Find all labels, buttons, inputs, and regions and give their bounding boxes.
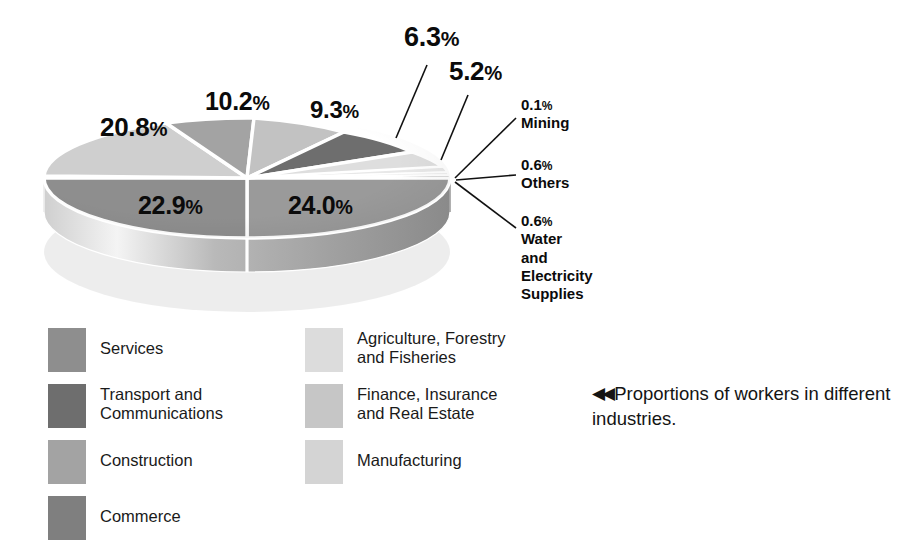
- callout-others-pct: 0.6%: [521, 156, 569, 174]
- legend-swatch-services: [48, 328, 86, 372]
- leader-line-others: [456, 175, 516, 180]
- legend-item-construction[interactable]: Construction: [48, 440, 193, 484]
- callout-water-pct: 0.6%: [521, 212, 593, 230]
- legend-swatch-commerce: [48, 496, 86, 540]
- legend-swatch-construction: [48, 440, 86, 484]
- legend-item-finance[interactable]: Finance, Insurance and Real Estate: [305, 384, 497, 428]
- legend-label-construction: Construction: [100, 440, 193, 470]
- legend-item-services[interactable]: Services: [48, 328, 163, 372]
- pie-label-10-2: 10.2%: [205, 89, 270, 114]
- legend-label-agriculture: Agriculture, Forestry and Fisheries: [357, 328, 506, 368]
- pie-label-24-0: 24.0%: [288, 193, 353, 218]
- legend-item-transport[interactable]: Transport and Communications: [48, 384, 223, 428]
- pie-label-20-8: 20.8%: [100, 114, 167, 140]
- legend-label-commerce: Commerce: [100, 496, 181, 526]
- legend: Services Transport and Communications Co…: [0, 320, 560, 525]
- leader-line-water: [455, 182, 516, 228]
- legend-label-manufacturing: Manufacturing: [357, 440, 462, 470]
- legend-label-services: Services: [100, 328, 163, 358]
- legend-swatch-agriculture: [305, 328, 343, 372]
- callout-mining: 0.1% Mining: [521, 96, 569, 133]
- legend-item-agriculture[interactable]: Agriculture, Forestry and Fisheries: [305, 328, 506, 372]
- double-left-arrow-icon: ◀◀: [592, 384, 612, 403]
- legend-swatch-manufacturing: [305, 440, 343, 484]
- pie-chart-svg: [0, 0, 560, 320]
- callout-mining-pct: 0.1%: [521, 96, 569, 114]
- legend-item-commerce[interactable]: Commerce: [48, 496, 181, 540]
- callout-water-name: Water and Electricity Supplies: [521, 230, 593, 303]
- legend-item-manufacturing[interactable]: Manufacturing: [305, 440, 462, 484]
- legend-label-transport: Transport and Communications: [100, 384, 223, 424]
- callout-others-name: Others: [521, 174, 569, 192]
- pie-chart: 20.8% 10.2% 9.3% 22.9% 24.0% 6.3% 5.2% 0…: [0, 0, 560, 320]
- leader-line-6-3: [396, 65, 427, 138]
- callout-mining-name: Mining: [521, 114, 569, 132]
- callout-others: 0.6% Others: [521, 156, 569, 193]
- leader-line-mining: [455, 118, 516, 178]
- pie-label-22-9: 22.9%: [138, 193, 203, 218]
- legend-label-finance: Finance, Insurance and Real Estate: [357, 384, 497, 424]
- pie-label-9-3: 9.3%: [310, 98, 359, 122]
- legend-swatch-finance: [305, 384, 343, 428]
- callout-water-electricity: 0.6% Water and Electricity Supplies: [521, 212, 593, 303]
- legend-swatch-transport: [48, 384, 86, 428]
- figure-caption: ◀◀Proportions of workers in different in…: [592, 382, 914, 431]
- caption-text: Proportions of workers in different indu…: [592, 383, 890, 429]
- pie-label-6-3: 6.3%: [404, 24, 459, 51]
- leader-line-5-2: [441, 95, 468, 160]
- pie-label-5-2: 5.2%: [449, 58, 502, 84]
